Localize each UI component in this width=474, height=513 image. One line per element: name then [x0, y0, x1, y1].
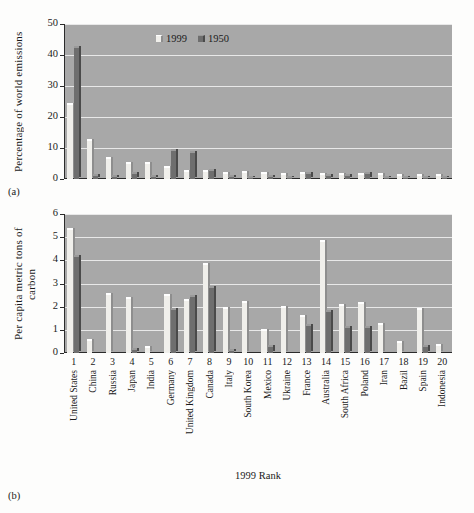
bar-1950-rank-15	[345, 328, 350, 353]
x-category-label-15: South Africa	[340, 370, 350, 418]
gridline	[65, 284, 452, 285]
legend-entry-1950: 1950	[198, 33, 229, 44]
x-rank-label-15: 15	[336, 356, 354, 367]
x-rank-label-7: 7	[181, 356, 199, 367]
bar-1950-rank-3	[112, 177, 117, 179]
subfigure-label-a: (a)	[8, 186, 20, 197]
bar-1999-rank-11	[261, 331, 266, 353]
bar-side-face	[195, 295, 197, 351]
bar-side-face	[111, 293, 113, 351]
bar-1999-rank-11	[261, 174, 266, 179]
bar-1999-rank-1	[67, 230, 72, 353]
bar-face	[229, 351, 234, 353]
gridline	[65, 307, 452, 308]
y-tick-label: 3	[36, 277, 58, 288]
bar-side-face	[137, 348, 139, 351]
bar-side-face	[408, 176, 410, 177]
bar-side-face	[117, 175, 119, 177]
bar-side-face	[402, 341, 404, 351]
bar-side-face	[79, 46, 81, 177]
bar-1999-rank-2	[87, 141, 92, 179]
bar-1999-rank-5	[145, 348, 150, 353]
plot-area-a	[64, 24, 452, 179]
bar-1999-rank-6	[164, 296, 169, 353]
x-rank-label-6: 6	[162, 356, 180, 367]
bar-side-face	[331, 174, 333, 177]
y-tick-label: 20	[36, 110, 58, 121]
bar-1950-rank-18	[403, 178, 408, 179]
bar-1950-rank-14	[326, 312, 331, 353]
bar-side-face	[292, 176, 294, 177]
bar-side-face	[98, 174, 100, 177]
bar-face	[248, 178, 253, 179]
bar-1999-rank-18	[397, 343, 402, 353]
bar-face	[287, 178, 292, 179]
bar-side-face	[273, 345, 275, 351]
bar-1999-rank-15	[339, 306, 344, 353]
bar-side-face	[286, 306, 288, 351]
y-tick-mark	[60, 260, 64, 261]
x-category-label-18: Bazil	[399, 370, 409, 390]
bar-side-face	[79, 255, 81, 351]
bar-side-face	[137, 172, 139, 177]
y-axis-label-b: Per capita metric tons of carbon	[12, 214, 38, 354]
y-tick-mark	[60, 284, 64, 285]
x-category-label-2: China	[88, 370, 98, 393]
x-category-label-4: Japan	[127, 370, 137, 392]
bar-side-face	[331, 310, 333, 351]
bar-side-face	[92, 139, 94, 177]
x-category-label-1: United States	[69, 370, 79, 421]
bar-side-face	[428, 345, 430, 351]
bar-1999-rank-4	[126, 299, 131, 353]
bar-1950-rank-1	[74, 48, 79, 179]
bar-side-face	[150, 346, 152, 351]
bar-1950-rank-19	[423, 347, 428, 353]
x-rank-label-17: 17	[375, 356, 393, 367]
bar-side-face	[247, 301, 249, 351]
bar-1999-rank-10	[242, 303, 247, 353]
bar-1999-rank-19	[417, 310, 422, 353]
bar-side-face	[176, 308, 178, 351]
x-category-label-5: India	[146, 370, 156, 390]
bar-side-face	[253, 176, 255, 177]
bar-1999-rank-14	[320, 242, 325, 353]
bar-1999-rank-12	[281, 175, 286, 179]
x-category-label-13: France	[302, 370, 312, 396]
bar-1950-rank-14	[326, 176, 331, 179]
x-rank-label-20: 20	[433, 356, 451, 367]
x-category-label-12: Ukraine	[282, 370, 292, 401]
bar-1999-rank-6	[164, 168, 169, 179]
legend-label-1950: 1950	[208, 33, 229, 44]
bar-1999-rank-9	[223, 174, 228, 179]
bar-1999-rank-19	[417, 176, 422, 179]
bar-1999-rank-5	[145, 164, 150, 179]
bar-side-face	[92, 339, 94, 351]
bar-1950-rank-2	[93, 176, 98, 179]
gridline	[65, 86, 452, 87]
x-category-label-20: Indonesia	[437, 370, 447, 407]
bar-side-face	[234, 349, 236, 351]
bar-1950-rank-9	[229, 177, 234, 179]
bar-1999-rank-16	[358, 304, 363, 353]
gridline	[65, 55, 452, 56]
bar-1950-rank-11	[268, 347, 273, 353]
y-tick-mark	[60, 214, 64, 215]
bar-1950-rank-6	[171, 151, 176, 179]
x-category-label-11: Mexico	[263, 370, 273, 399]
bar-1950-rank-10	[248, 178, 253, 179]
legend-entry-1999: 1999	[156, 33, 187, 44]
bar-face	[442, 178, 447, 179]
bar-side-face	[389, 176, 391, 177]
x-category-label-19: Spain	[418, 370, 428, 392]
bar-side-face	[428, 176, 430, 177]
y-tick-mark	[60, 86, 64, 87]
bar-face	[384, 178, 389, 179]
x-category-label-6: Germany	[166, 370, 176, 405]
bar-1999-rank-13	[300, 317, 305, 353]
bar-1950-rank-16	[365, 328, 370, 353]
y-axis-label-a: Percentage of world emissions	[12, 22, 38, 182]
x-rank-label-12: 12	[278, 356, 296, 367]
x-rank-label-10: 10	[239, 356, 257, 367]
figure-container: Percentage of world emissions 0102030405…	[0, 0, 474, 513]
y-tick-mark	[60, 237, 64, 238]
